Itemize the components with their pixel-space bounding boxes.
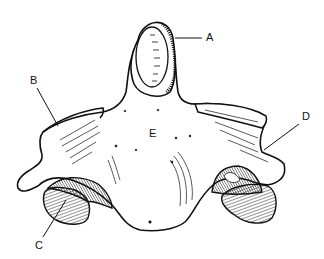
label-c: C bbox=[35, 240, 43, 251]
leader-line-d bbox=[264, 124, 299, 150]
dens bbox=[131, 22, 175, 96]
leader-line-b bbox=[37, 88, 58, 126]
label-e: E bbox=[149, 128, 156, 139]
axis-vertebra-drawing bbox=[0, 0, 324, 259]
label-a: A bbox=[206, 32, 213, 43]
label-d: D bbox=[302, 111, 310, 122]
label-b: B bbox=[30, 75, 37, 86]
